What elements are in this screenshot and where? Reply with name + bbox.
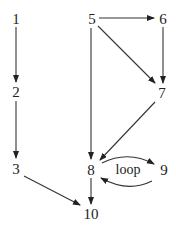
node-2: 2 — [12, 84, 20, 100]
node-5: 5 — [88, 11, 96, 27]
edge-7-8 — [100, 102, 155, 160]
edge-5-7 — [98, 26, 155, 83]
node-6: 6 — [159, 11, 167, 27]
loop-label: loop — [116, 162, 141, 177]
edge-3-10 — [24, 176, 80, 205]
node-8: 8 — [87, 162, 95, 178]
node-9: 9 — [160, 162, 168, 178]
node-10: 10 — [84, 206, 99, 222]
edge-9-8 — [101, 178, 152, 186]
control-flow-graph: 1 2 3 5 6 7 8 9 10 loop — [0, 0, 176, 226]
node-7: 7 — [158, 85, 166, 101]
node-1: 1 — [12, 11, 20, 27]
node-3: 3 — [12, 161, 20, 177]
